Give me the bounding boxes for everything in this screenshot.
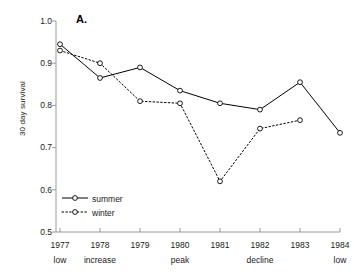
data-point-winter-6[interactable] — [298, 118, 303, 123]
data-point-summer-7[interactable] — [338, 130, 343, 135]
data-point-summer-2[interactable] — [138, 65, 143, 70]
series-line-winter — [60, 51, 300, 182]
data-point-winter-3[interactable] — [178, 101, 183, 106]
data-point-winter-1[interactable] — [98, 61, 103, 66]
data-point-summer-4[interactable] — [218, 101, 223, 106]
data-point-summer-1[interactable] — [98, 76, 103, 81]
legend-marker-winter — [73, 210, 78, 215]
data-point-summer-3[interactable] — [178, 88, 183, 93]
data-point-winter-2[interactable] — [138, 99, 143, 104]
data-point-summer-6[interactable] — [298, 80, 303, 85]
data-point-winter-4[interactable] — [218, 179, 223, 184]
data-point-winter-5[interactable] — [258, 126, 263, 131]
data-point-summer-5[interactable] — [258, 107, 263, 112]
data-point-winter-0[interactable] — [58, 48, 63, 53]
legend-marker-summer — [73, 196, 78, 201]
data-point-summer-0[interactable] — [58, 42, 63, 47]
